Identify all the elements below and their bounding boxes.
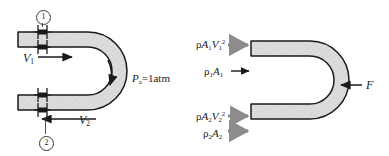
figure-svg [0, 0, 389, 156]
figure-container: 1 2 V1 V2 Pa=1atm ρA1V12 ρ1A1 ρA2V22 ρ2A… [0, 0, 389, 156]
pressure-force-outlet-label: ρ2A2 [203, 128, 222, 141]
station-1-marker: 1 [36, 10, 51, 25]
inlet-velocity-subscript: 1 [30, 57, 34, 66]
ambient-pressure-label: Pa=1atm [132, 73, 170, 86]
area-symbol: A [212, 127, 219, 139]
station-2-marker: 2 [39, 136, 54, 151]
ambient-pressure-symbol: P [132, 72, 139, 84]
ambient-pressure-value: =1atm [142, 72, 170, 84]
inlet-velocity-label: V1 [23, 52, 34, 66]
right-control-volume-body [251, 41, 349, 119]
outlet-velocity-label: V2 [79, 114, 90, 128]
momentum-flux-inlet-label: ρA1V12 [196, 39, 225, 52]
area-symbol: A [213, 65, 220, 77]
reaction-force-symbol: F [366, 78, 373, 92]
momentum-flux-outlet-label: ρA2V22 [196, 111, 225, 124]
area-subscript: 1 [220, 71, 223, 78]
area-subscript: 2 [219, 133, 222, 140]
outlet-velocity-subscript: 2 [86, 119, 90, 128]
velocity-superscript: 2 [222, 110, 225, 117]
pressure-force-inlet-label: ρ1A1 [204, 66, 223, 79]
velocity-superscript: 2 [222, 38, 225, 45]
reaction-force-label: F [366, 79, 373, 91]
